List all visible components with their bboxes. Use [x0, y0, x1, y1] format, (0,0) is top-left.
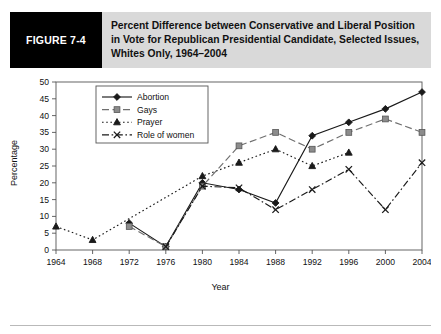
data-point-marker — [382, 105, 389, 112]
y-axis-tick-label: 35 — [39, 127, 49, 137]
legend-label: Abortion — [137, 92, 169, 102]
legend-marker-square — [114, 107, 120, 113]
x-axis-tick-label: 1964 — [46, 257, 65, 267]
y-axis-tick-label: 50 — [39, 77, 49, 87]
x-axis-label: Year — [10, 282, 431, 292]
data-point-marker — [126, 224, 132, 230]
chart-container: Percentage Year 051015202530354045501964… — [10, 74, 431, 302]
data-point-marker — [273, 130, 279, 136]
figure-number-label: FIGURE 7-4 — [26, 34, 86, 46]
data-point-marker — [383, 116, 389, 122]
data-point-marker — [419, 130, 425, 136]
data-point-marker — [309, 132, 316, 139]
figure-header: FIGURE 7-4 Percent Difference between Co… — [10, 12, 431, 68]
y-axis-tick-label: 30 — [39, 144, 49, 154]
x-axis-tick-label: 1980 — [193, 257, 212, 267]
x-axis-tick-label: 1984 — [229, 257, 248, 267]
y-axis-tick-label: 5 — [44, 228, 49, 238]
y-axis-tick-label: 20 — [39, 178, 49, 188]
series-prayer — [53, 146, 353, 243]
y-axis-tick-label: 10 — [39, 211, 49, 221]
x-axis-tick-label: 1992 — [303, 257, 322, 267]
x-axis-tick-label: 1976 — [156, 257, 175, 267]
series-line — [56, 149, 349, 240]
data-point-marker — [272, 146, 279, 152]
figure-title-banner: Percent Difference between Conservative … — [102, 12, 431, 68]
y-axis-tick-label: 40 — [39, 111, 49, 121]
y-axis-tick-label: 25 — [39, 161, 49, 171]
x-axis-tick-label: 2004 — [412, 257, 431, 267]
data-point-marker — [272, 200, 279, 207]
data-point-marker — [309, 146, 315, 152]
figure-page: FIGURE 7-4 Percent Difference between Co… — [0, 0, 441, 334]
figure-title-text: Percent Difference between Conservative … — [111, 19, 422, 62]
line-chart-plot: 0510152025303540455019641968197219761980… — [10, 74, 431, 279]
data-point-marker — [345, 119, 352, 126]
data-point-marker — [53, 223, 60, 229]
y-axis-tick-label: 15 — [39, 195, 49, 205]
data-point-marker — [419, 89, 426, 96]
x-axis-tick-label: 1972 — [120, 257, 139, 267]
legend-label: Prayer — [137, 117, 162, 127]
legend-label: Role of women — [137, 130, 195, 140]
chart-legend: AbortionGaysPrayerRole of women — [96, 86, 208, 143]
data-point-marker — [89, 236, 96, 242]
y-axis-tick-label: 45 — [39, 94, 49, 104]
y-axis-tick-label: 0 — [44, 245, 49, 255]
x-axis-tick-label: 1988 — [266, 257, 285, 267]
data-point-marker — [345, 149, 352, 155]
data-point-marker — [346, 130, 352, 136]
footer-divider — [10, 325, 431, 326]
x-axis-tick-label: 1996 — [339, 257, 358, 267]
figure-number-tag: FIGURE 7-4 — [10, 12, 102, 68]
x-axis-tick-label: 2000 — [376, 257, 395, 267]
legend-label: Gays — [137, 105, 157, 115]
data-point-marker — [236, 143, 242, 149]
x-axis-tick-label: 1968 — [83, 257, 102, 267]
